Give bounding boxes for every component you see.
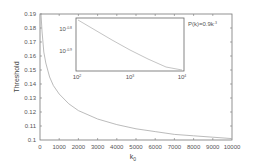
y-tick: 0.12: [24, 109, 36, 115]
y-tick: 0.16: [24, 53, 36, 59]
y-tick: 0.14: [24, 81, 36, 87]
x-tick: 4000: [110, 144, 124, 150]
svg-text:10-0.8: 10-0.8: [59, 26, 72, 32]
y-tick: 0.15: [24, 67, 36, 73]
y-tick: 0.11: [25, 123, 37, 129]
threshold-chart: 0.19 0.18 0.17 0.16 0.15 0.14 0.13 0.12 …: [0, 0, 255, 167]
x-tick: 2000: [72, 144, 86, 150]
x-tick: 6000: [149, 144, 163, 150]
y-tick: 0.19: [24, 11, 36, 17]
x-tick: 9000: [206, 144, 220, 150]
x-axis-label: k0: [130, 153, 137, 162]
svg-text:10-0.9: 10-0.9: [59, 48, 72, 54]
y-axis-label: Threshold: [13, 61, 20, 92]
x-tick: 1000: [53, 144, 67, 150]
x-tick: 8000: [187, 144, 201, 150]
inset-frame: [76, 18, 184, 71]
svg-text:104: 104: [178, 74, 187, 80]
y-tick: 0.17: [24, 39, 36, 45]
x-tick: 5000: [129, 144, 143, 150]
y-axis-ticks: 0.19 0.18 0.17 0.16 0.15 0.14 0.13 0.12 …: [24, 11, 36, 143]
x-tick: 3000: [91, 144, 105, 150]
x-tick: 7000: [168, 144, 182, 150]
x-tick: 10000: [224, 144, 241, 150]
svg-text:102: 102: [73, 74, 82, 80]
inset-y-ticks: 10-0.8 10-0.9: [59, 26, 72, 54]
y-tick: 0.13: [24, 95, 36, 101]
inset-x-ticks: 102 103 104: [73, 74, 187, 80]
x-axis-ticks: 0 1000 2000 3000 4000 5000 6000 7000 800…: [38, 144, 241, 150]
annotation-label: P(k)=0.9k-3: [188, 21, 217, 27]
y-tick: 0.1: [28, 137, 37, 143]
y-tick: 0.18: [24, 25, 36, 31]
svg-text:103: 103: [126, 74, 135, 80]
x-tick: 0: [38, 144, 42, 150]
